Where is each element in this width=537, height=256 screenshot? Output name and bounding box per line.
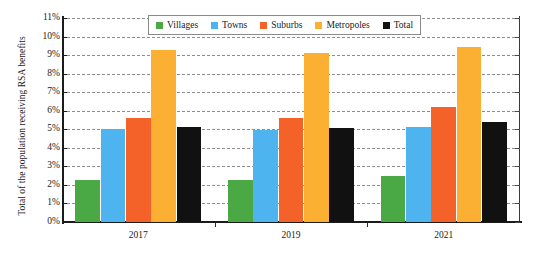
y-axis-tick-mark-right (515, 74, 520, 75)
x-axis-tick-label: 2021 (434, 230, 453, 240)
legend-swatch-icon (383, 22, 390, 29)
legend-label: Suburbs (271, 20, 302, 31)
y-axis-tick-mark (62, 74, 67, 75)
y-axis-tick-mark-right (515, 37, 520, 38)
x-axis-tick-label: 2017 (129, 230, 148, 240)
y-axis-tick-label: 1% (16, 197, 60, 207)
y-axis-tick-mark-right (515, 18, 520, 19)
y-axis-tick-mark (62, 92, 67, 93)
bar-villages-2017 (75, 180, 100, 222)
y-axis-tick-label: 10% (16, 31, 60, 41)
y-axis-tick-mark-right (515, 185, 520, 186)
gridline (62, 74, 520, 75)
legend-label: Towns (222, 20, 247, 31)
y-axis-tick-mark-right (515, 166, 520, 167)
plot-area (62, 18, 520, 222)
y-axis-tick-mark (62, 37, 67, 38)
bar-metropoles-2019 (304, 53, 329, 222)
y-axis-tick-label: 6% (16, 105, 60, 115)
legend-item-villages[interactable]: Villages (156, 20, 198, 31)
y-axis-tick-mark (62, 148, 67, 149)
chart-legend: VillagesTownsSuburbsMetropolesTotal (148, 15, 421, 35)
y-axis-tick-label: 9% (16, 49, 60, 59)
bar-villages-2021 (381, 176, 406, 222)
y-axis-tick-mark-right (515, 92, 520, 93)
y-axis-tick-mark (62, 185, 67, 186)
bar-suburbs-2021 (431, 107, 456, 222)
legend-label: Villages (167, 20, 198, 31)
bar-villages-2019 (228, 180, 253, 222)
y-axis-tick-label: 8% (16, 68, 60, 78)
x-axis-tick-label: 2019 (282, 230, 301, 240)
legend-swatch-icon (315, 22, 322, 29)
y-axis-tick-label: 11% (16, 12, 60, 22)
bar-suburbs-2017 (126, 118, 151, 222)
y-axis-tick-mark-right (515, 148, 520, 149)
bar-towns-2021 (406, 127, 431, 223)
bar-total-2021 (482, 122, 507, 222)
legend-label: Total (394, 20, 413, 31)
bar-metropoles-2021 (457, 47, 482, 222)
gridline (62, 92, 520, 93)
y-axis-tick-mark (62, 18, 67, 19)
y-axis-tick-mark (62, 203, 67, 204)
y-axis-tick-mark (62, 55, 67, 56)
legend-item-total[interactable]: Total (383, 20, 413, 31)
y-axis-tick-mark-right (515, 203, 520, 204)
legend-swatch-icon (211, 22, 218, 29)
legend-item-suburbs[interactable]: Suburbs (260, 20, 302, 31)
y-axis-tick-label: 4% (16, 142, 60, 152)
bar-chart: Total of the population receiving RSA be… (0, 0, 537, 256)
y-axis-tick-mark-right (515, 129, 520, 130)
gridline (62, 37, 520, 38)
y-axis-tick-label: 5% (16, 123, 60, 133)
y-axis-tick-mark (62, 129, 67, 130)
x-axis-tick-mark (215, 223, 216, 227)
y-axis-tick-label: 0% (16, 216, 60, 226)
bar-total-2017 (177, 127, 202, 223)
y-axis-tick-label: 2% (16, 179, 60, 189)
x-axis-tick-mark (367, 223, 368, 227)
legend-swatch-icon (156, 22, 163, 29)
y-axis-tick-mark (62, 111, 67, 112)
y-axis-tick-mark-right (515, 55, 520, 56)
bar-towns-2017 (101, 129, 126, 222)
legend-swatch-icon (260, 22, 267, 29)
y-axis-tick-mark-right (515, 111, 520, 112)
y-axis-tick-label: 3% (16, 160, 60, 170)
bar-towns-2019 (253, 130, 278, 222)
y-axis-tick-labels: 0%1%2%3%4%5%6%7%8%9%10%11% (10, 18, 60, 222)
legend-label: Metropoles (326, 20, 369, 31)
gridline (62, 55, 520, 56)
legend-item-metropoles[interactable]: Metropoles (315, 20, 369, 31)
y-axis-tick-mark (62, 166, 67, 167)
legend-item-towns[interactable]: Towns (211, 20, 247, 31)
y-axis-tick-label: 7% (16, 86, 60, 96)
y-axis-tick-mark (62, 222, 67, 223)
bar-suburbs-2019 (279, 118, 304, 222)
y-axis-tick-mark-right (515, 222, 520, 223)
bar-metropoles-2017 (151, 50, 176, 222)
bar-total-2019 (329, 128, 354, 222)
